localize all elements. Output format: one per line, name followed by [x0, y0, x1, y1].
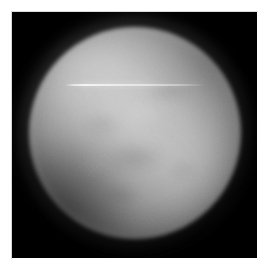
horizontal-streak-artifact — [65, 84, 205, 86]
disk-surface-albedo-features — [32, 30, 238, 236]
image-page — [0, 0, 270, 274]
astronomy-image-frame — [12, 12, 257, 258]
